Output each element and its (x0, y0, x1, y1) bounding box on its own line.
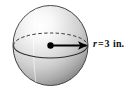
center-dot (47, 42, 53, 48)
sphere-figure: r=3 in. (0, 0, 132, 92)
radius-label: r=3 in. (93, 38, 124, 50)
radius-unit: in. (112, 38, 124, 49)
equals-sign: = (97, 38, 105, 49)
radius-value: 3 (105, 38, 110, 49)
